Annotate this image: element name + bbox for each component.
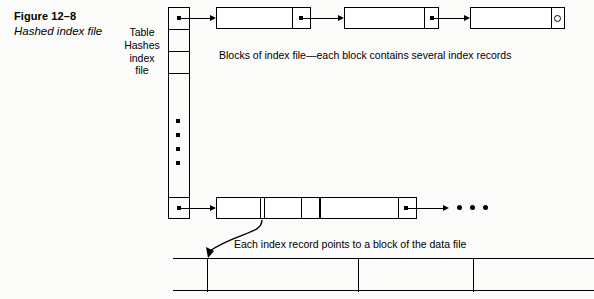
arrowhead-icon	[443, 205, 449, 211]
hash-table-ellipsis-dot	[176, 133, 180, 137]
chain-ellipsis-dot	[457, 205, 462, 210]
figure-title: Hashed index file	[14, 25, 122, 39]
record-to-data-arrow	[0, 0, 594, 299]
connector-line-table-to-block1	[179, 18, 214, 19]
index-blocks-caption: Blocks of index file—each block contains…	[219, 49, 511, 61]
index-record-divider	[260, 197, 261, 219]
index-record-divider	[264, 197, 265, 219]
hash-cell-divider	[168, 73, 190, 74]
index-block-pointer-divider	[424, 7, 425, 29]
chain-ellipsis-dot	[470, 205, 475, 210]
index-block	[216, 7, 311, 29]
hash-table-ellipsis-dot	[176, 147, 180, 151]
figure-diagram: Figure 12–8 Hashed index file Table Hash…	[0, 0, 594, 299]
hash-table-label-line-2: Hashes	[118, 39, 166, 52]
index-block-pointer-divider	[301, 197, 302, 219]
index-block-pointer-divider	[398, 197, 399, 219]
index-block	[216, 197, 320, 219]
hash-table-label-line-4: file	[118, 64, 166, 77]
hash-table-label-line-3: index	[118, 52, 166, 65]
connector-line-table-to-block4	[179, 208, 214, 209]
data-file-block-divider	[358, 259, 359, 292]
index-block-pointer-divider	[551, 7, 552, 29]
chain-ellipsis-dot	[483, 205, 488, 210]
hash-table-label-line-1: Table	[118, 26, 166, 39]
connector-line-block2-to-block3	[432, 18, 468, 19]
hash-cell-divider	[168, 29, 190, 30]
figure-number: Figure 12–8	[14, 10, 76, 22]
hash-table-ellipsis-dot	[176, 161, 180, 165]
data-file-block-divider	[207, 259, 208, 292]
data-pointer-caption: Each index record points to a block of t…	[234, 238, 466, 250]
hash-cell-divider	[168, 51, 190, 52]
hash-table-column	[168, 7, 190, 219]
hash-cell-divider	[168, 197, 190, 198]
hash-table-ellipsis-dot	[176, 119, 180, 123]
data-file-bar	[173, 258, 594, 291]
index-block-pointer-divider	[292, 7, 293, 29]
connector-line-block5-to-ellipsis	[406, 208, 446, 209]
connector-line-block1-to-block2	[301, 18, 341, 19]
index-block	[320, 197, 417, 219]
null-pointer-icon	[554, 15, 561, 22]
hash-table-label: Table Hashes index file	[118, 26, 166, 77]
data-file-block-divider	[473, 259, 474, 292]
